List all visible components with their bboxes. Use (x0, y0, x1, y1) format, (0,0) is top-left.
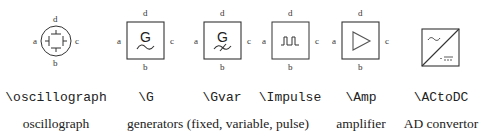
amplifier-description: amplifier (336, 116, 385, 132)
convertor-description: AD convertor (404, 116, 479, 132)
Impulse-command: \Impulse (259, 90, 321, 105)
Amp-pin-c: c (385, 36, 389, 46)
Amp-pin-b: b (358, 62, 363, 72)
G-pin-b: b (143, 62, 148, 72)
generator-fixed-glyph: G (140, 29, 151, 45)
Amp-pin-d: d (358, 8, 363, 18)
Gvar-command: \Gvar (202, 90, 241, 105)
G-pin-c: c (170, 36, 174, 46)
Amp-command: \Amp (345, 90, 376, 105)
Impulse-pin-c: c (315, 36, 319, 46)
Gvar-pin-a: a (194, 36, 198, 46)
Amp-pin-a: a (332, 36, 336, 46)
symbol-table: a d c b G a d c b G a d c b a d c b (0, 0, 495, 137)
oscillograph-command: \oscillograph (5, 90, 106, 105)
oscillograph-pin-c: c (75, 36, 79, 46)
Gvar-pin-d: d (220, 8, 225, 18)
ACtoDC-command: \ACtoDC (414, 90, 469, 105)
generator-variable-glyph: G (217, 29, 228, 45)
generators-description: generators (fixed, variable, pulse) (127, 116, 309, 132)
Impulse-pin-b: b (288, 62, 293, 72)
Impulse-pin-d: d (288, 8, 293, 18)
amplifier-icon (342, 22, 379, 59)
generator-pulse-icon (272, 22, 309, 59)
oscillograph-pin-d: d (53, 14, 58, 24)
ac-to-dc-icon (422, 29, 459, 66)
Gvar-pin-c: c (247, 36, 251, 46)
oscillograph-pin-a: a (33, 36, 37, 46)
Gvar-pin-b: b (220, 62, 225, 72)
oscillograph-pin-b: b (53, 58, 58, 68)
oscillograph-icon (41, 26, 71, 56)
Impulse-pin-a: a (262, 36, 266, 46)
G-pin-a: a (117, 36, 121, 46)
G-command: \G (138, 90, 154, 105)
oscillograph-description: oscillograph (23, 116, 90, 132)
G-pin-d: d (143, 8, 148, 18)
